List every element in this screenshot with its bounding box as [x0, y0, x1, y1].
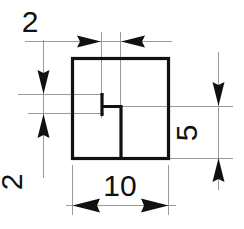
internal-notch-feature	[102, 95, 121, 159]
arrow-right-upper	[213, 82, 225, 106]
arrow-left-lower	[38, 114, 50, 138]
arrow-top-right	[121, 36, 145, 48]
arrow-top-left	[77, 36, 101, 48]
arrow-bottom-right	[141, 199, 169, 213]
notch-path	[102, 95, 121, 159]
technical-drawing-canvas: 2 2 5 10	[0, 0, 244, 229]
dimension-label-right-5: 5	[170, 125, 203, 142]
dimension-label-bottom-10: 10	[103, 169, 136, 202]
dimension-label-top-2: 2	[22, 5, 39, 38]
dimension-label-left-2: 2	[0, 174, 28, 191]
arrow-left-upper	[38, 70, 50, 94]
arrow-right-lower	[213, 158, 225, 182]
drawing-svg: 2 2 5 10	[0, 0, 244, 229]
arrow-bottom-left	[73, 199, 101, 213]
